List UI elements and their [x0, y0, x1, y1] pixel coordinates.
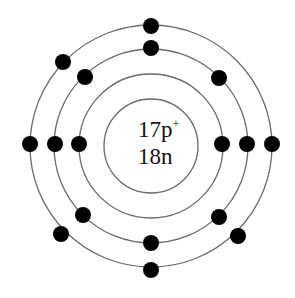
electron-dot	[143, 40, 159, 56]
electron-dot	[71, 136, 87, 152]
protons-label: 17p+	[138, 117, 180, 142]
electron-dot	[143, 18, 159, 34]
electron-dot	[75, 207, 91, 223]
electron-dot	[211, 70, 227, 86]
electron-dot	[230, 228, 246, 244]
atom-diagram: 17p+ 18n	[0, 0, 295, 298]
electron-dot	[55, 54, 71, 70]
electron-dot	[211, 209, 227, 225]
protons-count: 17p	[138, 117, 173, 142]
positive-charge-sign: +	[173, 117, 180, 131]
electron-dot	[77, 69, 93, 85]
electron-dot	[47, 136, 63, 152]
neutrons-label: 18n	[138, 144, 173, 169]
electron-dot	[239, 136, 255, 152]
electron-dot	[143, 262, 159, 278]
electron-dot	[53, 226, 69, 242]
electron-dot	[22, 136, 38, 152]
electron-dot	[214, 136, 230, 152]
electron-dot	[143, 235, 159, 251]
electron-dot	[264, 136, 280, 152]
